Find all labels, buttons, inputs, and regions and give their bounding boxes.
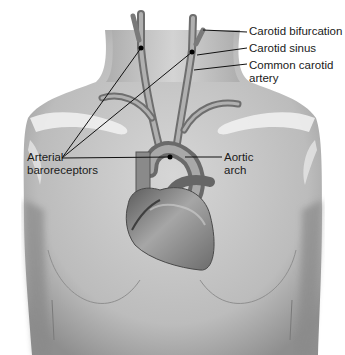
right-carotid-sinus-dot	[190, 50, 195, 55]
label-common-carotid-line2: artery	[249, 72, 278, 85]
label-carotid-sinus: Carotid sinus	[249, 42, 316, 55]
label-aortic-line1: Aortic	[224, 151, 253, 164]
label-baroreceptors-line1: Arterial	[27, 151, 63, 164]
aortic-arch-dot	[168, 155, 173, 160]
label-aortic-line2: arch	[224, 164, 246, 177]
label-baroreceptors-line2: baroreceptors	[27, 164, 98, 177]
label-common-carotid-line1: Common carotid	[249, 59, 333, 72]
left-carotid-sinus-dot	[139, 46, 144, 51]
label-carotid-bifurcation: Carotid bifurcation	[249, 25, 342, 38]
